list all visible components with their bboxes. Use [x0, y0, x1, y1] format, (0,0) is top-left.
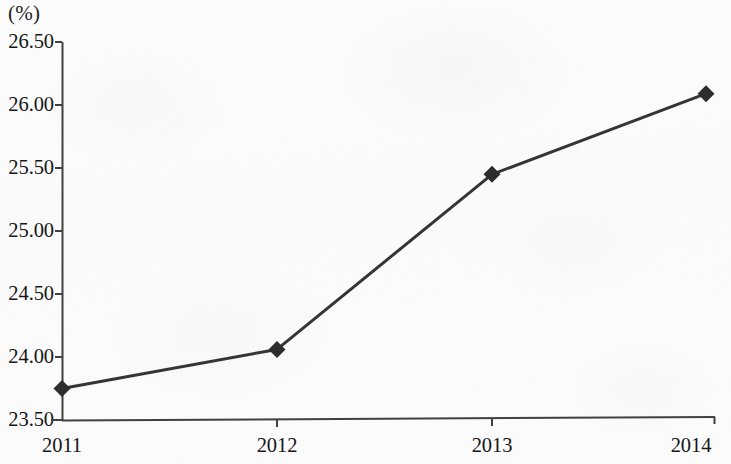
- chart-plot-area: [0, 0, 731, 464]
- series-markers: [54, 85, 715, 397]
- data-point-2011: [54, 380, 71, 397]
- x-axis-line: [62, 417, 715, 421]
- data-point-2014: [698, 85, 715, 102]
- series-line: [62, 94, 706, 389]
- y-axis-ticks: [51, 42, 62, 420]
- line-chart: (%) 26.50 26.00 25.50 25.00 24.50 24.00 …: [0, 0, 731, 464]
